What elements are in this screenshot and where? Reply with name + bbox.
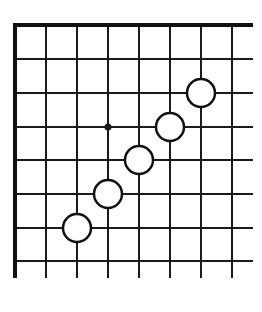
- white-stone: [125, 146, 153, 174]
- go-board-diagram: [0, 0, 262, 312]
- white-stone: [94, 180, 122, 208]
- white-stone: [63, 214, 91, 242]
- star-points: [105, 124, 112, 131]
- star-point: [105, 124, 112, 131]
- white-stone: [156, 113, 184, 141]
- white-stone: [187, 79, 215, 107]
